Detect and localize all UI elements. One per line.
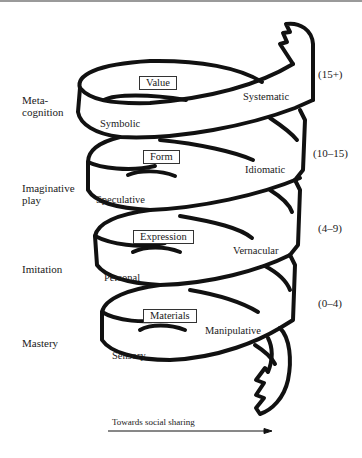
box-form: Form (143, 150, 180, 164)
age-range-4-9: (4–9) (318, 222, 342, 234)
stage-label-imitation: Imitation (22, 263, 62, 275)
stage-label-mastery: Mastery (22, 337, 58, 349)
mode-sensory: Sensory (112, 350, 146, 361)
box-materials: Materials (143, 309, 197, 323)
mode-idiomatic: Idiomatic (245, 164, 285, 175)
spiral-ribbon (0, 0, 362, 458)
mode-vernacular: Vernacular (233, 245, 278, 256)
mode-speculative: Speculative (96, 194, 145, 205)
box-expression: Expression (133, 230, 194, 244)
mode-personal: Personal (104, 272, 140, 283)
torn-bottom-end (256, 328, 290, 414)
mode-symbolic: Symbolic (100, 118, 140, 129)
social-sharing-arrow (108, 429, 272, 434)
age-range-10-15: (10–15) (313, 147, 348, 159)
age-range-0-4: (0–4) (318, 297, 342, 309)
mode-manipulative: Manipulative (205, 325, 261, 336)
age-range-15-plus: (15+) (318, 68, 343, 80)
stage-label-imaginative-play: Imaginative play (22, 182, 92, 206)
mode-systematic: Systematic (243, 91, 289, 102)
axis-label-social-sharing: Towards social sharing (112, 417, 195, 427)
stage-label-metacognition: Meta- cognition (22, 94, 82, 118)
torn-top-end (280, 24, 313, 100)
box-value: Value (139, 76, 177, 90)
